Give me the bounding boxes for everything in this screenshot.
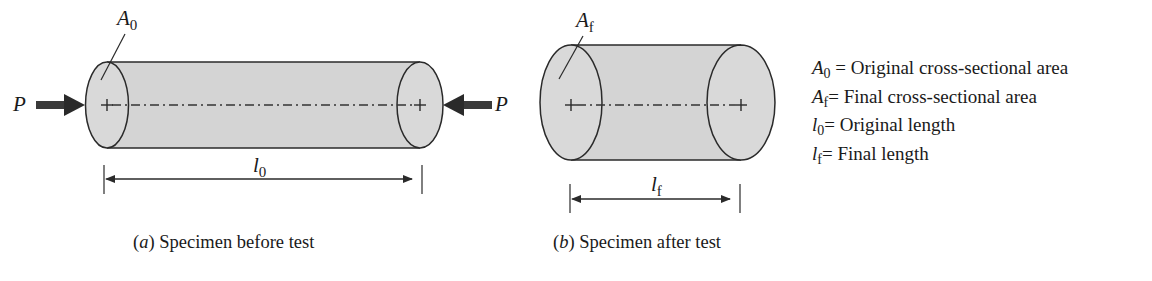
caption-specimen-a: (a) Specimen before test	[133, 232, 314, 253]
legend-item-l0: l0= Original length	[812, 114, 1068, 143]
caption-letter: b	[559, 232, 568, 252]
caption-letter: a	[139, 232, 148, 252]
specimen-a-cylinder	[86, 34, 444, 148]
legend-text: = Original cross-sectional area	[831, 57, 1069, 78]
load-arrow-right-icon	[443, 94, 492, 116]
area-af-label: Af	[576, 8, 594, 36]
area-a0-label: A0	[117, 6, 137, 34]
load-symbol: P	[495, 92, 508, 116]
length-subscript: f	[657, 183, 662, 199]
caption-text: Specimen before test	[155, 232, 315, 252]
legend-item-lf: lf= Final length	[812, 143, 1068, 172]
legend-symbol: A	[812, 57, 824, 78]
caption-text: Specimen after test	[575, 232, 721, 252]
area-symbol: A	[117, 6, 130, 30]
length-lf-label: lf	[651, 172, 662, 200]
area-symbol: A	[576, 8, 589, 32]
legend-text: = Final cross-sectional area	[828, 86, 1037, 107]
legend-text: = Original length	[824, 114, 955, 135]
length-subscript: 0	[259, 164, 267, 180]
area-subscript: f	[589, 19, 594, 35]
legend-subscript: 0	[824, 66, 831, 81]
load-label-left: P	[13, 92, 26, 117]
legend-text: = Final length	[822, 143, 929, 164]
legend-symbol: A	[812, 86, 824, 107]
legend-item-af: Af= Final cross-sectional area	[812, 86, 1068, 115]
specimen-b-cylinder	[540, 36, 775, 160]
load-symbol: P	[13, 92, 26, 116]
area-subscript: 0	[130, 17, 138, 33]
legend-item-a0: A0 = Original cross-sectional area	[812, 57, 1068, 86]
caption-specimen-b: (b) Specimen after test	[553, 232, 721, 253]
length-l0-label: l0	[253, 153, 266, 181]
load-label-right: P	[495, 92, 508, 117]
legend: A0 = Original cross-sectional area Af= F…	[812, 57, 1068, 171]
load-arrow-left-icon	[36, 94, 85, 116]
